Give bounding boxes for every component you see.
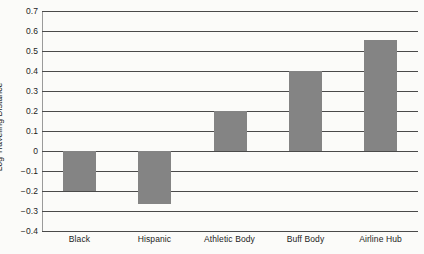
y-tick-label: −0.4 [4, 227, 38, 236]
gridline [42, 31, 418, 32]
y-tick-label: 0.7 [4, 7, 38, 16]
x-tick-label: Black [42, 234, 117, 244]
bar [138, 151, 171, 204]
y-tick-label: 0.1 [4, 127, 38, 136]
plot-area [42, 11, 418, 231]
gridline [42, 91, 418, 92]
y-tick-label: −0.2 [4, 187, 38, 196]
y-tick-label: 0.4 [4, 67, 38, 76]
x-tick-label: Airline Hub [343, 234, 418, 244]
x-tick-label: Buff Body [268, 234, 343, 244]
gridline [42, 151, 418, 152]
bar [214, 111, 247, 151]
y-tick-label: 0.3 [4, 87, 38, 96]
y-tick-label: 0 [4, 147, 38, 156]
gridline [42, 211, 418, 212]
bar [364, 40, 397, 151]
x-tick-label: Hispanic [117, 234, 192, 244]
y-tick-label: −0.3 [4, 207, 38, 216]
y-tick-label: 0.6 [4, 27, 38, 36]
bar [63, 151, 96, 191]
gridline [42, 11, 418, 12]
gridline [42, 51, 418, 52]
gridline [42, 231, 418, 232]
y-tick-label: 0.5 [4, 47, 38, 56]
gridline [42, 71, 418, 72]
y-tick-label: −0.1 [4, 167, 38, 176]
x-axis-tick-labels: BlackHispanicAthletic BodyBuff BodyAirli… [42, 234, 418, 252]
y-tick-label: 0.2 [4, 107, 38, 116]
bar [289, 71, 322, 151]
bar-chart: Log Traveling Distance 0.70.60.50.40.30.… [0, 0, 424, 254]
gridline [42, 171, 418, 172]
y-axis-tick-labels: 0.70.60.50.40.30.20.10−0.1−0.2−0.3−0.4 [0, 0, 38, 254]
gridline [42, 191, 418, 192]
x-tick-label: Athletic Body [192, 234, 267, 244]
